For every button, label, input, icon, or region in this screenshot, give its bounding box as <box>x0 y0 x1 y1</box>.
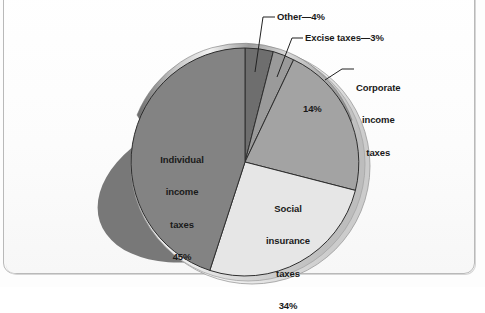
slice-label-excise-taxes: Excise taxes—3% <box>305 33 384 44</box>
slice-label-social-line3: taxes <box>252 269 324 280</box>
slice-value-individual-income-taxes: 45% <box>146 252 218 263</box>
slice-label-social-line2: insurance <box>252 236 324 247</box>
slice-label-social-insurance-taxes: Social insurance taxes 34% <box>252 182 324 313</box>
leader-line-corporate-stem <box>325 69 342 80</box>
slice-label-individual-line1: Individual <box>146 155 218 166</box>
slice-label-other: Other—4% <box>277 12 325 23</box>
slice-label-corporate-line2: income <box>356 115 401 126</box>
slice-label-individual-line2: income <box>146 187 218 198</box>
slice-value-social-insurance-taxes: 34% <box>252 301 324 312</box>
slice-label-social-line1: Social <box>252 204 324 215</box>
slice-label-corporate-income-taxes: Corporate income taxes <box>356 61 401 180</box>
slice-label-individual-income-taxes: Individual income taxes 45% <box>146 133 218 285</box>
slice-label-individual-line3: taxes <box>146 220 218 231</box>
slice-label-corporate-line3: taxes <box>356 148 401 159</box>
slice-value-corporate-income-taxes: 14% <box>303 104 322 115</box>
slice-label-corporate-line1: Corporate <box>356 83 401 94</box>
